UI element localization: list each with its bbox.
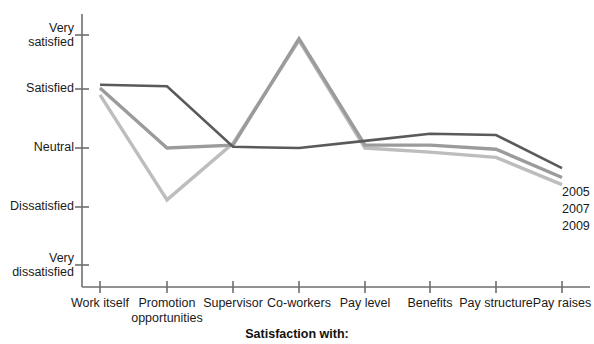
ytick-label-very-dissatisfied: Very dissatisfied <box>0 252 74 279</box>
legend-entry-2009: 2009 <box>562 219 590 233</box>
line-chart: Very satisfied Satisfied Neutral Dissati… <box>0 0 594 344</box>
legend-entry-2005: 2005 <box>562 185 590 199</box>
legend-entry-2007: 2007 <box>562 202 590 216</box>
series-line-2009 <box>100 40 562 200</box>
ytick-label-dissatisfied: Dissatisfied <box>0 200 74 214</box>
plot-area <box>0 0 594 344</box>
ytick-label-neutral: Neutral <box>0 141 74 155</box>
x-axis-title: Satisfaction with: <box>0 327 594 341</box>
xtick-label-pay-raises: Pay raises <box>514 296 594 311</box>
ytick-label-satisfied: Satisfied <box>0 82 74 96</box>
ytick-label-very-satisfied: Very satisfied <box>0 22 74 49</box>
